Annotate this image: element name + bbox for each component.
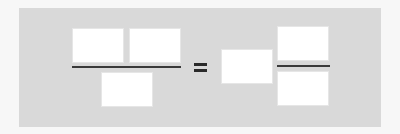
right-fraction-bar	[277, 65, 330, 67]
left-fraction-bar	[72, 66, 181, 68]
right-whole-number-box[interactable]	[221, 49, 273, 84]
equals-bottom-bar	[194, 69, 207, 72]
left-numerator-box-1[interactable]	[72, 28, 124, 63]
right-denominator-box[interactable]	[277, 71, 329, 106]
left-numerator-box-2[interactable]	[129, 28, 181, 63]
right-numerator-box[interactable]	[277, 26, 329, 61]
left-denominator-box[interactable]	[101, 72, 153, 107]
equals-top-bar	[194, 63, 207, 66]
